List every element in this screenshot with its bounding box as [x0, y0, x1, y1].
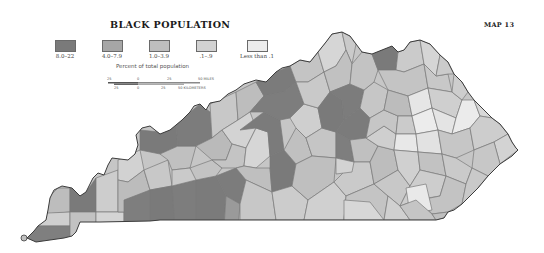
kentucky-county-map [0, 0, 544, 253]
kentucky-bend [21, 235, 27, 241]
